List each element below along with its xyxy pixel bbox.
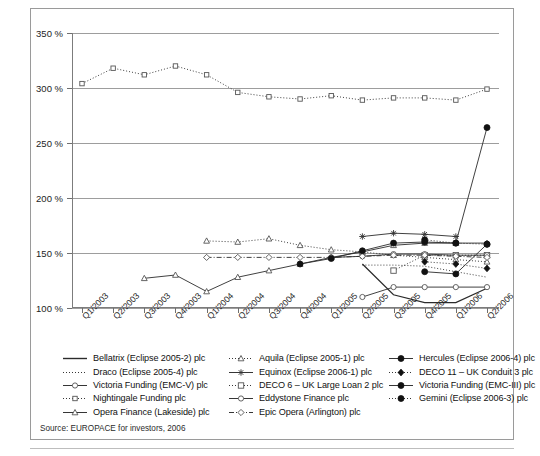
legend-column-2: Aquila (Eclipse 2005-1) plcEquinox (Ecli… xyxy=(228,352,388,419)
bottom-divider xyxy=(30,448,514,449)
legend-swatch-gemini-icon xyxy=(388,392,414,405)
legend-item-gemini[interactable]: Gemini (Eclipse 2006-3) plc xyxy=(388,392,538,405)
legend-label: Equinox (Eclipse 2006-1) plc xyxy=(259,366,372,379)
legend-swatch-opera-lakeside-icon xyxy=(62,406,88,419)
legend-item-bellatrix[interactable]: Bellatrix (Eclipse 2005-2) plc xyxy=(62,352,227,365)
legend-item-epic-opera[interactable]: Epic Opera (Arlington) plc xyxy=(228,406,388,419)
legend-item-deco-11[interactable]: DECO 11 – UK Conduit 3 plc xyxy=(388,365,538,378)
y-tick-mark xyxy=(67,143,72,144)
legend-swatch-eddystone-icon xyxy=(228,392,254,405)
legend-item-victoria-emc-v[interactable]: Victoria Funding (EMC-V) plc xyxy=(62,379,227,392)
legend-swatch-bellatrix-icon xyxy=(62,352,88,365)
y-tick-label: 300 % xyxy=(36,83,63,94)
series-opera-lakeside xyxy=(141,240,489,294)
legend-swatch-nightingale-icon xyxy=(62,392,88,405)
legend-item-draco[interactable]: Draco (Eclipse 2005-4) plc xyxy=(62,365,227,378)
legend-label: Gemini (Eclipse 2006-3) plc xyxy=(419,392,528,405)
legend-swatch-victoria-emc-v-icon xyxy=(62,379,88,392)
legend-label: DECO 6 – UK Large Loan 2 plc xyxy=(259,379,383,392)
source-note: Source: EUROPACE for investors, 2006 xyxy=(40,424,185,433)
legend-column-1: Bellatrix (Eclipse 2005-2) plcDraco (Ecl… xyxy=(62,352,227,419)
series-deco-11 xyxy=(422,258,490,271)
legend-item-nightingale[interactable]: Nightingale Funding plc xyxy=(62,392,227,405)
y-tick-label: 200 % xyxy=(36,193,63,204)
legend-item-aquila[interactable]: Aquila (Eclipse 2005-1) plc xyxy=(228,352,388,365)
y-tick-mark xyxy=(67,308,72,309)
series-aquila xyxy=(204,236,490,264)
legend-item-eddystone[interactable]: Eddystone Finance plc xyxy=(228,392,388,405)
legend-item-victoria-emc-iii[interactable]: Victoria Funding (EMC-III) plc xyxy=(388,379,538,392)
legend-label: Eddystone Finance plc xyxy=(259,392,349,405)
y-tick-mark xyxy=(67,88,72,89)
legend-item-equinox[interactable]: Equinox (Eclipse 2006-1) plc xyxy=(228,365,388,378)
y-tick-mark xyxy=(67,198,72,199)
chart-legend: Bellatrix (Eclipse 2005-2) plcDraco (Ecl… xyxy=(40,352,506,420)
y-tick-label: 100 % xyxy=(36,303,63,314)
series-nightingale xyxy=(80,64,489,103)
legend-swatch-epic-opera-icon xyxy=(228,406,254,419)
legend-label: DECO 11 – UK Conduit 3 plc xyxy=(419,366,533,379)
legend-swatch-aquila-icon xyxy=(228,352,254,365)
legend-label: Aquila (Eclipse 2005-1) plc xyxy=(259,352,364,365)
legend-label: Hercules (Eclipse 2006-4) plc xyxy=(419,352,535,365)
legend-swatch-equinox-icon xyxy=(228,366,254,379)
legend-item-opera-lakeside[interactable]: Opera Finance (Lakeside) plc xyxy=(62,406,227,419)
legend-label: Victoria Funding (EMC-III) plc xyxy=(419,379,535,392)
legend-label: Epic Opera (Arlington) plc xyxy=(259,406,361,419)
legend-swatch-victoria-emc-iii-icon xyxy=(388,379,414,392)
legend-label: Victoria Funding (EMC-V) plc xyxy=(93,379,208,392)
series-hercules xyxy=(297,125,490,267)
legend-label: Draco (Eclipse 2005-4) plc xyxy=(93,366,198,379)
legend-swatch-hercules-icon xyxy=(388,352,414,365)
series-layer xyxy=(72,33,499,308)
y-tick-mark xyxy=(67,33,72,34)
legend-item-deco-6[interactable]: DECO 6 – UK Large Loan 2 plc xyxy=(228,379,388,392)
plot-area: 100 %150 %200 %250 %300 %350 % Q1/2003Q2… xyxy=(72,33,499,308)
series-epic-opera xyxy=(204,252,491,260)
series-equinox xyxy=(359,230,459,240)
legend-column-3: Hercules (Eclipse 2006-4) plcDECO 11 – U… xyxy=(388,352,538,406)
legend-swatch-deco-6-icon xyxy=(228,379,254,392)
y-tick-label: 350 % xyxy=(36,28,63,39)
chart-page: 100 %150 %200 %250 %300 %350 % Q1/2003Q2… xyxy=(0,0,540,456)
y-tick-label: 250 % xyxy=(36,138,63,149)
legend-item-hercules[interactable]: Hercules (Eclipse 2006-4) plc xyxy=(388,352,538,365)
y-tick-label: 150 % xyxy=(36,248,63,259)
legend-swatch-deco-11-icon xyxy=(388,366,414,379)
legend-label: Opera Finance (Lakeside) plc xyxy=(93,406,210,419)
legend-swatch-draco-icon xyxy=(62,366,88,379)
legend-label: Bellatrix (Eclipse 2005-2) plc xyxy=(93,352,205,365)
y-tick-mark xyxy=(67,253,72,254)
legend-label: Nightingale Funding plc xyxy=(93,392,186,405)
